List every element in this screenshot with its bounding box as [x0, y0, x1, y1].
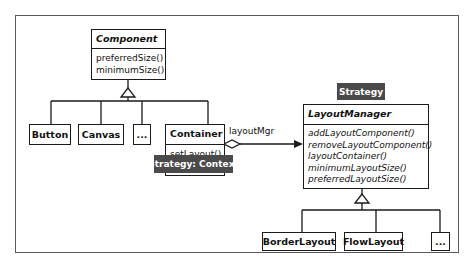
strategy-tag: Strategy [337, 83, 385, 100]
inheritance-triangle-icon [355, 194, 369, 203]
class-component: Component preferredSize() minimumSize() [91, 29, 166, 80]
class-canvas: Canvas [78, 124, 124, 145]
operation: preferredLayoutSize() [308, 174, 424, 186]
class-layout-more: ... [431, 232, 450, 251]
operation: removeLayoutComponent() [308, 140, 424, 152]
class-layout-manager: LayoutManager addLayoutComponent() remov… [303, 104, 429, 189]
operation: addLayoutComponent() [308, 128, 424, 140]
class-name: Component [92, 30, 165, 48]
class-operations: preferredSize() minimumSize() [92, 48, 165, 79]
class-flow-layout: FlowLayout [344, 232, 403, 251]
class-border-layout: BorderLayout [262, 232, 336, 251]
class-operations: addLayoutComponent() removeLayoutCompone… [304, 124, 428, 189]
aggregation-diamond-icon [224, 140, 240, 148]
inheritance-triangle-icon [121, 88, 135, 97]
operation: minimumLayoutSize() [308, 163, 424, 175]
strategy-context-tag: Strategy: Context [154, 155, 233, 173]
operation: minimumSize() [96, 64, 161, 76]
operation: layoutContainer() [308, 151, 424, 163]
arrowhead-icon [294, 140, 303, 148]
association-role-label: layoutMgr [229, 126, 274, 136]
class-button: Button [29, 124, 71, 145]
class-name: Container [166, 125, 224, 144]
operation: preferredSize() [96, 52, 161, 64]
class-name: LayoutManager [304, 105, 428, 124]
class-component-more: ... [133, 124, 151, 145]
